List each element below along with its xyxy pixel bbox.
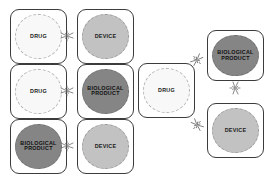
node-label: DRUG [158, 88, 175, 94]
blob-drug: DRUG [15, 14, 61, 59]
blob-biological-product: BIOLOGICAL PRODUCT [82, 69, 128, 114]
node-drug-2[interactable]: DRUG [10, 64, 67, 119]
blob-device: DEVICE [82, 14, 128, 59]
node-label: DEVICE [225, 128, 247, 134]
combination-product-diagram: DRUG DEVICE DRUG [0, 0, 268, 185]
node-label: DRUG [30, 34, 47, 40]
node-label: DEVICE [95, 34, 117, 40]
node-label: BIOLOGICAL PRODUCT [20, 141, 56, 153]
blob-device: DEVICE [82, 124, 128, 169]
blob-drug: DRUG [15, 69, 61, 114]
node-device-2[interactable]: DEVICE [77, 119, 134, 174]
blob-device: DEVICE [212, 108, 258, 153]
node-biological-product-2[interactable]: BIOLOGICAL PRODUCT [10, 119, 67, 174]
blob-drug: DRUG [143, 68, 189, 113]
blob-biological-product: BIOLOGICAL PRODUCT [15, 124, 61, 169]
node-label: DRUG [30, 89, 47, 95]
node-device-3[interactable]: DEVICE [207, 103, 264, 158]
node-label: BIOLOGICAL PRODUCT [87, 86, 123, 98]
node-label: BIOLOGICAL PRODUCT [217, 50, 253, 62]
node-biological-product-1[interactable]: BIOLOGICAL PRODUCT [77, 64, 134, 119]
conn-bio-device-vertical-icon [228, 81, 242, 95]
node-drug-1[interactable]: DRUG [10, 9, 67, 64]
node-biological-product-3[interactable]: BIOLOGICAL PRODUCT [207, 30, 264, 81]
node-device-1[interactable]: DEVICE [77, 9, 134, 64]
blob-biological-product: BIOLOGICAL PRODUCT [212, 35, 258, 76]
node-drug-hub[interactable]: DRUG [138, 63, 195, 118]
conn-hub-device-icon [187, 115, 207, 135]
node-label: DEVICE [95, 144, 117, 150]
